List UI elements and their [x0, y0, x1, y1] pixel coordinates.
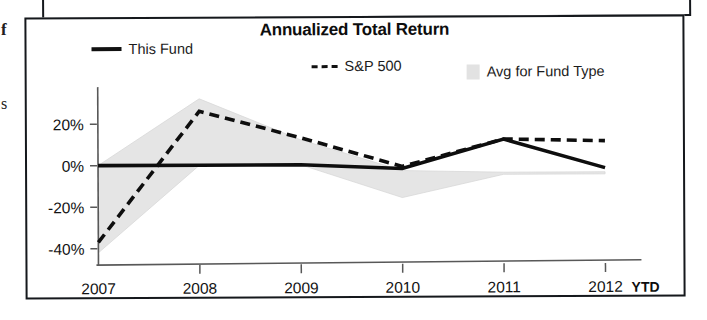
x-tick-label: 2007	[81, 280, 116, 297]
x-tick-label: 2010	[385, 279, 420, 296]
x-tick-label: 2009	[284, 279, 319, 296]
y-tick-label: -40%	[48, 241, 84, 258]
x-tick-label: 2012	[588, 278, 623, 295]
x-tick-label: 2008	[183, 280, 218, 297]
scanned-page: f s Annualized Total Return This Fund S&…	[0, 0, 707, 320]
y-tick-label: 20%	[53, 116, 84, 133]
x-tick-label: 2011	[487, 278, 520, 295]
page-edge-text-fragment-bottom: s	[1, 95, 7, 113]
y-tick-label: -20%	[48, 199, 84, 216]
y-tick-label: 0%	[62, 158, 85, 175]
x-axis-suffix-ytd: YTD	[632, 279, 660, 295]
page-edge-text-fragment-top: f	[1, 20, 7, 40]
chart-plot: 20%0%-20%-40%200720082009201020112012YTD	[26, 17, 687, 302]
series-avg-fund-type-band	[98, 97, 606, 253]
chart-container: Annualized Total Return This Fund S&P 50…	[24, 15, 685, 300]
